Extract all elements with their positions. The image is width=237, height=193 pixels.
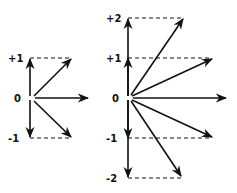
right-vec-plus1-arrow-icon — [132, 59, 212, 96]
right-label-plus2: +2 — [106, 13, 121, 24]
right-vec-minus1-arrow-icon — [132, 100, 212, 137]
left-phasor-diagram: +1 0 -1 — [8, 53, 88, 144]
vector-diagram-canvas: +1 0 -1 +2 +1 0 -1 -2 — [0, 0, 237, 193]
right-label-minus2: -2 — [106, 173, 117, 184]
left-diag-up-arrow-icon — [34, 59, 71, 96]
right-phasor-diagram: +2 +1 0 -1 -2 — [106, 13, 226, 184]
left-label-minus1: -1 — [8, 133, 19, 144]
left-label-zero: 0 — [14, 93, 21, 104]
right-label-zero: 0 — [112, 93, 119, 104]
right-label-minus1: -1 — [106, 133, 117, 144]
right-label-plus1: +1 — [106, 53, 121, 64]
left-diag-down-arrow-icon — [34, 101, 71, 137]
left-label-plus1: +1 — [8, 53, 23, 64]
